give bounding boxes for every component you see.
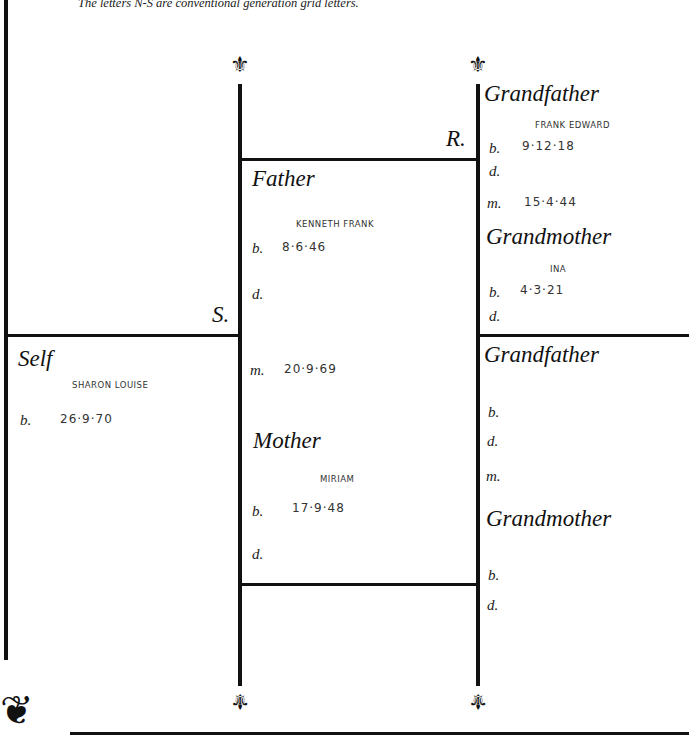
- paternal-grandmother-death-label: d.: [489, 308, 500, 325]
- self-top-line: [4, 334, 242, 337]
- mother-birth-label: b.: [252, 503, 263, 520]
- mother-bottom-line: [238, 583, 480, 586]
- mother-birth-value: 17·9·48: [292, 501, 345, 515]
- paternal-grandfather-birth-label: b.: [489, 140, 500, 157]
- paternal-grandparents-marriage-value: 15·4·44: [524, 195, 577, 209]
- maternal-grandparents-top-line: [476, 334, 689, 337]
- maternal-grandfather-heading: Grandfather: [484, 342, 599, 368]
- paternal-grandparents-marriage-label: m.: [487, 195, 502, 212]
- grid-letter-r: R.: [446, 126, 466, 152]
- paternal-grandfather-birth-value: 9·12·18: [522, 139, 575, 153]
- father-column-left-line: [238, 84, 242, 686]
- fleur-de-lis-icon: ⚜: [466, 54, 490, 76]
- paternal-grandmother-name: INA: [550, 264, 566, 274]
- maternal-grandparents-marriage-label: m.: [486, 468, 501, 485]
- father-birth-value: 8·6·46: [282, 240, 326, 254]
- father-birth-label: b.: [252, 240, 263, 257]
- ornamental-corner-icon: ❦: [0, 690, 34, 730]
- paternal-grandfather-heading: Grandfather: [484, 81, 599, 107]
- mother-death-label: d.: [252, 546, 263, 563]
- fleur-de-lis-icon: ⚜: [466, 690, 490, 712]
- father-top-line: [238, 158, 480, 161]
- maternal-grandfather-death-label: d.: [487, 433, 498, 450]
- father-heading: Father: [252, 166, 315, 192]
- maternal-grandmother-death-label: d.: [487, 597, 498, 614]
- marriage-value: 20·9·69: [284, 362, 337, 376]
- self-birth-value: 26·9·70: [60, 412, 113, 426]
- grid-letter-s: S.: [212, 302, 229, 328]
- paternal-grandmother-birth-label: b.: [489, 284, 500, 301]
- paternal-grandmother-heading: Grandmother: [486, 224, 611, 250]
- maternal-grandmother-heading: Grandmother: [486, 506, 611, 532]
- left-border-line: [4, 0, 8, 660]
- paternal-grandfather-death-label: d.: [489, 163, 500, 180]
- paternal-grandmother-birth-value: 4·3·21: [520, 283, 564, 297]
- maternal-grandfather-birth-label: b.: [488, 404, 499, 421]
- marriage-label: m.: [250, 362, 265, 379]
- father-death-label: d.: [252, 286, 263, 303]
- self-name: SHARON LOUISE: [72, 380, 148, 390]
- mother-name: MIRIAM: [320, 474, 354, 484]
- bottom-border-line: [70, 732, 689, 735]
- maternal-grandmother-birth-label: b.: [488, 567, 499, 584]
- fleur-de-lis-icon: ⚜: [228, 54, 252, 76]
- self-birth-label: b.: [20, 412, 31, 429]
- father-name: KENNETH FRANK: [296, 219, 374, 229]
- mother-heading: Mother: [253, 428, 321, 454]
- self-heading: Self: [18, 346, 53, 372]
- grid-note: The letters N-S are conventional generat…: [78, 0, 359, 11]
- paternal-grandfather-name: FRANK EDWARD: [535, 120, 610, 130]
- father-column-right-line: [476, 84, 480, 686]
- fleur-de-lis-icon: ⚜: [228, 690, 252, 712]
